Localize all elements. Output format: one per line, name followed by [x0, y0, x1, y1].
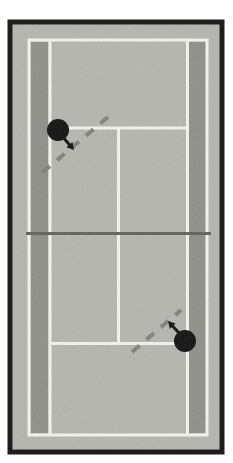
tennis-court-diagram: [0, 0, 233, 463]
court-figure: [0, 0, 233, 463]
page-background: [0, 0, 233, 463]
grain-overlay: [12, 24, 220, 450]
